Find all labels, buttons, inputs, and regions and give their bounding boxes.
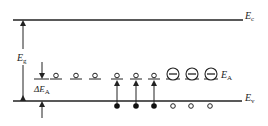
band-diagram: Ec Ev Eg ΔEA EA xyxy=(0,0,268,126)
electron-transitions xyxy=(114,83,157,109)
ionized-acceptor-icon xyxy=(185,68,199,80)
ionized-acceptors xyxy=(166,68,218,80)
hole-icon xyxy=(171,104,176,109)
electron-icon xyxy=(151,103,157,109)
neutral-acceptors xyxy=(50,73,160,79)
electron-icon xyxy=(133,103,139,109)
neutral-acceptor xyxy=(70,73,82,79)
electron-transition xyxy=(133,83,139,109)
acceptor-level-label: EA xyxy=(220,69,232,82)
neutral-acceptor xyxy=(89,73,101,79)
electron-transition xyxy=(114,83,120,109)
neutral-acceptor xyxy=(148,73,160,79)
conduction-band-label: Ec xyxy=(244,10,254,23)
neutral-acceptor xyxy=(111,73,123,79)
ionization-energy-label: ΔEA xyxy=(33,84,50,96)
neutral-acceptor xyxy=(130,73,142,79)
electron-transition xyxy=(151,83,157,109)
ionized-acceptor-icon xyxy=(204,68,218,80)
ionized-acceptor-icon xyxy=(166,68,180,80)
hole-icon xyxy=(189,104,194,109)
electron-icon xyxy=(114,103,120,109)
holes xyxy=(171,104,213,109)
valence-band-label: Ev xyxy=(244,92,255,105)
hole-icon xyxy=(208,104,213,109)
neutral-acceptor xyxy=(50,73,62,79)
